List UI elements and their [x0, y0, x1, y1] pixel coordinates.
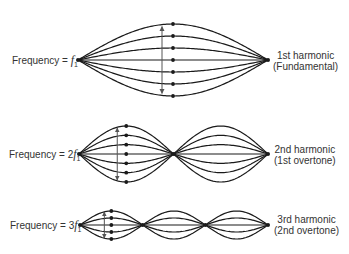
antinode-dot [109, 230, 113, 234]
antinode-dot [171, 34, 175, 38]
node-point [141, 223, 145, 227]
harmonic-1-wave [76, 22, 270, 98]
harmonic-label-1: 1st harmonic (Fundamental) [273, 50, 338, 72]
harmonic-alias: (1st overtone) [274, 155, 336, 166]
harmonic-2-wave [77, 124, 270, 184]
frequency-prefix: Frequency = [12, 55, 71, 66]
antinode-dot [124, 161, 128, 165]
frequency-prefix: Frequency = [10, 220, 69, 231]
antinode-dot [171, 22, 175, 26]
node-point [266, 152, 270, 156]
antinode-dot [124, 133, 128, 137]
harmonic-alias: (Fundamental) [273, 61, 338, 72]
harmonic-name: 2nd harmonic [274, 144, 336, 155]
frequency-label-1: Frequency = f1 [12, 53, 78, 68]
harmonic-3-wave [78, 209, 270, 241]
node-point [172, 152, 176, 156]
frequency-label-3: Frequency = 3f1 [10, 218, 81, 233]
harmonic-name: 1st harmonic [273, 50, 338, 61]
antinode-dot [171, 94, 175, 98]
frequency-prefix: Frequency = [9, 149, 68, 160]
antinode-dot [124, 124, 128, 128]
frequency-label-2: Frequency = 2f1 [9, 147, 80, 162]
antinode-dot [171, 70, 175, 74]
antinode-dot [171, 46, 175, 50]
frequency-subscript: 1 [78, 226, 82, 233]
antinode-dot [124, 152, 128, 156]
antinode-dot [124, 171, 128, 175]
antinode-dot [171, 58, 175, 62]
antinode-dot [109, 237, 113, 241]
frequency-subscript: 1 [74, 61, 78, 68]
harmonic-alias: (2nd overtone) [274, 225, 339, 236]
node-point [266, 223, 270, 227]
antinode-dot [109, 209, 113, 213]
antinode-dot [124, 143, 128, 147]
harmonic-name: 3rd harmonic [274, 214, 339, 225]
antinode-dot [171, 82, 175, 86]
frequency-subscript: 1 [77, 155, 81, 162]
harmonic-label-2: 2nd harmonic (1st overtone) [274, 144, 336, 166]
antinode-dot [109, 223, 113, 227]
node-point [266, 58, 270, 62]
antinode-dot [124, 180, 128, 184]
antinode-dot [109, 216, 113, 220]
node-point [203, 223, 207, 227]
harmonic-label-3: 3rd harmonic (2nd overtone) [274, 214, 339, 236]
